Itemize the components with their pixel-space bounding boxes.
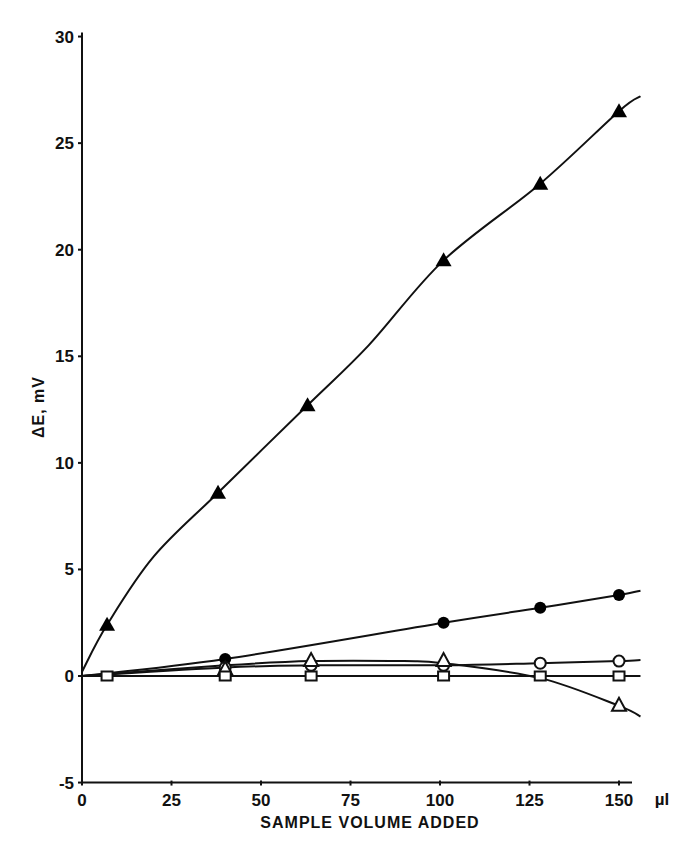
open-square-marker xyxy=(614,672,625,681)
open-square-marker xyxy=(438,672,449,681)
x-tick-label: 75 xyxy=(341,791,360,810)
open-triangle-marker xyxy=(304,653,318,666)
markers xyxy=(99,103,627,711)
filled-circle-marker xyxy=(534,602,546,614)
open-circle-marker xyxy=(614,656,625,667)
open-triangle-curve xyxy=(82,661,640,717)
x-tick-label: 100 xyxy=(426,791,454,810)
y-tick-label: 30 xyxy=(55,28,74,47)
open-square-marker xyxy=(535,672,546,681)
x-tick-label: 150 xyxy=(605,791,633,810)
filled-circle-marker xyxy=(613,589,625,601)
y-tick-label: 25 xyxy=(55,134,74,153)
axes: -50510152025300255075100125150 xyxy=(55,28,633,810)
open-square-marker xyxy=(306,672,317,681)
x-axis-title: SAMPLE VOLUME ADDED xyxy=(260,814,479,831)
y-tick-label: -5 xyxy=(59,774,74,793)
filled-triangle-curve xyxy=(82,96,640,671)
open-square-marker xyxy=(102,672,113,681)
y-tick-label: 20 xyxy=(55,241,74,260)
y-axis-title: ΔE, mV xyxy=(30,376,47,438)
y-tick-label: 10 xyxy=(55,454,74,473)
x-axis-unit: µl xyxy=(655,790,670,809)
y-tick-label: 0 xyxy=(65,667,74,686)
chart: -50510152025300255075100125150 SAMPLE VO… xyxy=(0,0,699,846)
open-square-marker xyxy=(220,672,231,681)
open-circle-marker xyxy=(535,658,546,669)
open-circle-curve xyxy=(82,660,640,676)
x-tick-label: 25 xyxy=(162,791,181,810)
x-tick-label: 0 xyxy=(77,791,86,810)
x-tick-label: 125 xyxy=(515,791,543,810)
curves xyxy=(82,96,640,716)
x-tick-label: 50 xyxy=(252,791,271,810)
y-tick-label: 15 xyxy=(55,347,74,366)
open-triangle-marker xyxy=(437,653,451,666)
filled-triangle-marker xyxy=(99,617,115,631)
y-tick-label: 5 xyxy=(65,560,74,579)
filled-circle-marker xyxy=(438,617,450,629)
